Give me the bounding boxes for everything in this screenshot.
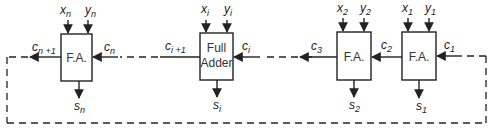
box-label-1: F.A. bbox=[409, 50, 430, 64]
label-xi: xi bbox=[200, 2, 210, 18]
box-label-n: F.A. bbox=[66, 51, 87, 65]
ripple-carry-adder-diagram: F.A. xn yn sn cn +1 cn Full Adder xi yi … bbox=[0, 0, 492, 132]
label-c3: c3 bbox=[311, 39, 322, 55]
label-si: si bbox=[213, 98, 222, 114]
label-y2: y2 bbox=[359, 1, 371, 17]
label-s1: s1 bbox=[416, 99, 427, 115]
label-c2: c2 bbox=[381, 38, 392, 54]
label-y1: y1 bbox=[424, 1, 436, 17]
label-cn1: cn +1 bbox=[32, 40, 56, 56]
label-yn: yn bbox=[84, 3, 96, 19]
stage-1: F.A. x1 y1 s1 c1 bbox=[401, 1, 462, 115]
label-ci1: ci +1 bbox=[165, 39, 186, 55]
label-c1: c1 bbox=[444, 38, 455, 54]
label-x1: x1 bbox=[401, 1, 413, 17]
label-x2: x2 bbox=[336, 1, 348, 17]
box-label-2: F.A. bbox=[344, 50, 365, 64]
stage-i: Full Adder xi yi si ci +1 ci bbox=[165, 2, 251, 114]
label-cn: cn bbox=[104, 40, 115, 56]
label-s2: s2 bbox=[349, 98, 360, 114]
label-xn: xn bbox=[59, 3, 71, 19]
label-yi: yi bbox=[223, 2, 233, 18]
label-sn: sn bbox=[74, 99, 85, 115]
box-label-i-line2: Adder bbox=[200, 56, 232, 70]
label-ci: ci bbox=[242, 39, 251, 55]
stage-n: F.A. xn yn sn cn +1 cn bbox=[30, 3, 115, 115]
box-label-i-line1: Full bbox=[207, 41, 226, 55]
